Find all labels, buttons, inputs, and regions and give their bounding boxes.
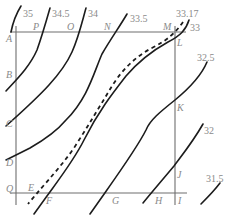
point-A: A	[5, 33, 13, 44]
point-D: D	[5, 157, 14, 168]
contour-value-labels: 35 34.5 34 33.5 33.17 33 32.5 32 31.5	[23, 8, 224, 184]
point-L: L	[176, 37, 183, 48]
contour-33	[34, 20, 189, 214]
point-M: M	[162, 21, 172, 32]
point-Q: Q	[6, 183, 14, 194]
contour-diagram: 35 34.5 34 33.5 33.17 33 32.5 32 31.5 A …	[0, 0, 225, 217]
label-34-5: 34.5	[52, 8, 70, 19]
contour-lines	[6, 6, 220, 214]
point-E: E	[27, 182, 34, 193]
contour-32-5	[90, 62, 207, 214]
point-F: F	[45, 195, 53, 206]
label-34: 34	[88, 8, 98, 19]
contour-33-5	[6, 14, 127, 160]
point-I: I	[177, 195, 182, 206]
point-K: K	[176, 102, 185, 113]
point-P: P	[32, 21, 39, 32]
label-35: 35	[23, 8, 33, 19]
label-31-5: 31.5	[206, 173, 224, 184]
point-J: J	[177, 169, 182, 180]
contour-32	[143, 124, 203, 203]
label-32-5: 32.5	[197, 52, 215, 63]
contour-31-5	[201, 183, 220, 204]
point-N: N	[103, 21, 112, 32]
contour-34-5	[6, 8, 50, 91]
point-B: B	[6, 69, 12, 80]
label-33-5: 33.5	[130, 13, 148, 24]
point-O: O	[67, 21, 74, 32]
label-32: 32	[204, 125, 214, 136]
point-H: H	[154, 195, 163, 206]
label-33-17: 33.17	[176, 8, 199, 19]
point-C: C	[6, 118, 13, 129]
label-33: 33	[190, 22, 200, 33]
point-G: G	[112, 195, 119, 206]
